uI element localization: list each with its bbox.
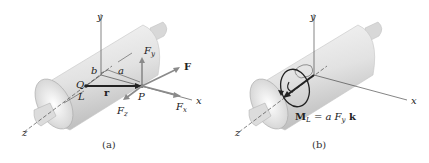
label-point-p: P [138, 92, 145, 102]
caption-a: (a) [102, 140, 116, 150]
label-position-vector-r: r [104, 88, 109, 98]
label-dim-b: b [91, 66, 97, 76]
fy-main: F [144, 45, 151, 56]
panel-a: y F Fy b a Q r L P x Fx Fz z (a) [0, 0, 215, 163]
moment-m: M [295, 111, 306, 122]
label-moment-equation: ML = a Fy k [295, 112, 356, 124]
label-force-fz: Fz [117, 106, 128, 118]
label-axis-l: L [78, 92, 85, 102]
fx-sub: x [183, 106, 187, 114]
label-dim-a: a [118, 66, 124, 76]
fz-main: F [117, 105, 124, 116]
fz-sub: z [124, 110, 128, 118]
label-force-fx: Fx [176, 102, 187, 114]
label-force-fy: Fy [144, 46, 155, 58]
fx-main: F [176, 101, 183, 112]
label-x-axis-b: x [411, 96, 417, 106]
caption-b: (b) [312, 140, 326, 150]
label-force-f: F [184, 62, 191, 72]
label-x-axis-a: x [196, 96, 202, 106]
fy-sub: y [151, 50, 155, 58]
panel-b: y x z ML = a Fy k (b) [215, 0, 429, 163]
label-point-q: Q [76, 80, 84, 90]
label-z-axis-b: z [235, 128, 240, 138]
label-z-axis-a: z [22, 128, 27, 138]
label-y-axis-a: y [97, 12, 103, 22]
label-y-axis-b: y [310, 12, 316, 22]
moment-eq: = a F [311, 111, 342, 122]
moment-k: k [346, 111, 356, 122]
